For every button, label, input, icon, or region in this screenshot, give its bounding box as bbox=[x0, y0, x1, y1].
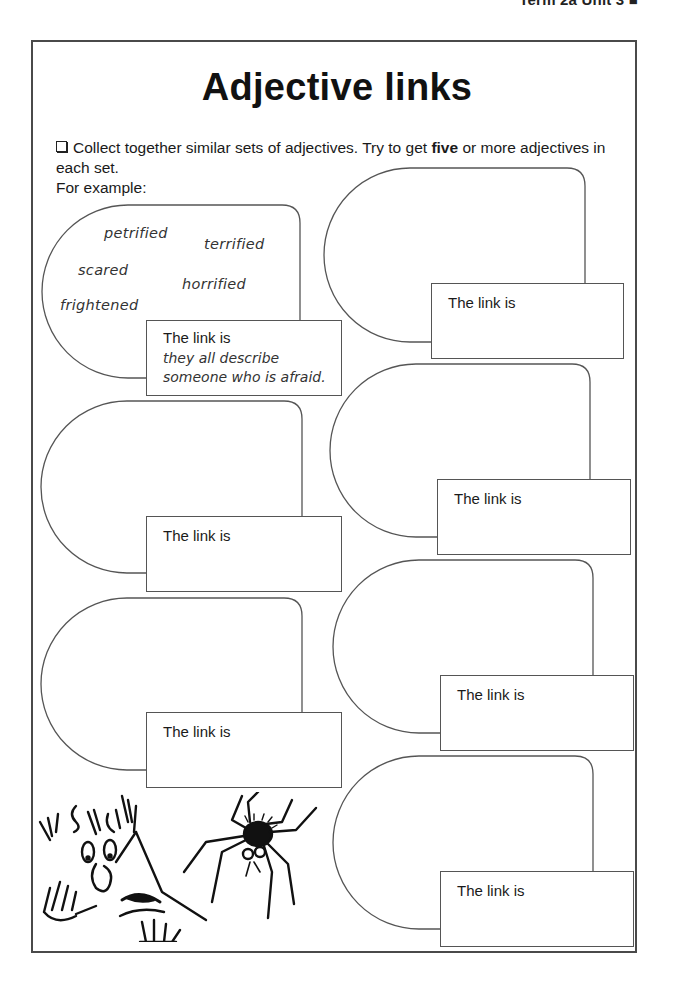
link-label: The link is bbox=[448, 294, 516, 311]
adjective-word: frightened bbox=[60, 297, 138, 313]
link-label: The link is bbox=[163, 527, 231, 544]
answer-line-2: someone who is afraid. bbox=[163, 368, 326, 387]
link-box-right-3[interactable]: The link is bbox=[440, 675, 634, 751]
link-label: The link is bbox=[457, 686, 525, 703]
adjective-word: scared bbox=[78, 262, 128, 278]
link-box-right-2[interactable]: The link is bbox=[437, 479, 631, 555]
adjective-word: terrified bbox=[204, 236, 265, 252]
adjective-word: horrified bbox=[182, 276, 246, 292]
link-box-right-1[interactable]: The link is bbox=[431, 283, 624, 359]
link-label: The link is bbox=[454, 490, 522, 507]
example-link-box: The link is they all describe someone wh… bbox=[146, 320, 342, 396]
link-box-left-2[interactable]: The link is bbox=[146, 516, 342, 592]
link-label: The link is bbox=[457, 882, 525, 899]
link-box-right-4[interactable]: The link is bbox=[440, 871, 634, 947]
adjective-word: petrified bbox=[104, 225, 168, 241]
answer-line-1: they all describe bbox=[163, 349, 326, 368]
scared-person-spider-illustration bbox=[36, 792, 326, 942]
link-label: The link is bbox=[163, 329, 231, 346]
link-box-left-3[interactable]: The link is bbox=[146, 712, 342, 788]
example-link-answer: they all describe someone who is afraid. bbox=[163, 349, 326, 387]
link-label: The link is bbox=[163, 723, 231, 740]
